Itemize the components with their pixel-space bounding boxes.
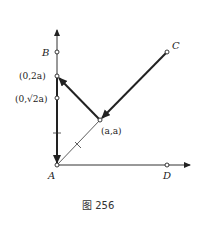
label-c: C: [172, 40, 180, 51]
diagonal-segment: [57, 120, 100, 165]
figure-caption: 图 256: [82, 200, 114, 211]
diagram-canvas: B (0,2a) (0,√2a) (a,a) C A D 图 256: [0, 0, 204, 225]
label-0-2a: (0,2a): [19, 71, 46, 81]
label-b: B: [41, 47, 49, 58]
point-d: [165, 163, 169, 167]
point-b: [55, 50, 59, 54]
label-a-a: (a,a): [101, 126, 122, 136]
point-0-2a: [55, 74, 59, 78]
label-d: D: [162, 170, 171, 181]
label-a: A: [47, 170, 55, 181]
label-0-sqrt2a: (0,√2a): [15, 94, 47, 104]
path-aa-to-0-2a: [59, 78, 100, 120]
point-c: [165, 50, 169, 54]
path-c-to-aa: [102, 52, 167, 118]
point-a: [55, 163, 59, 167]
point-a-a: [98, 118, 102, 122]
point-0-sqrt2a: [55, 96, 59, 100]
